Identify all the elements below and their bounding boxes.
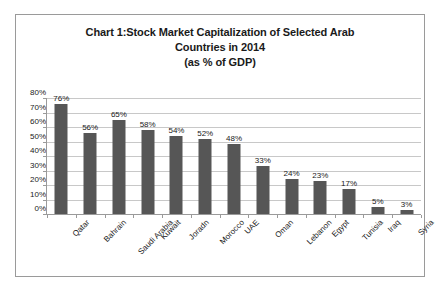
- y-axis-tick-mark: [43, 98, 46, 99]
- plot-area: 76%56%65%58%54%52%48%33%24%23%17%5%3%: [47, 98, 421, 214]
- x-axis-category-label: Joradn: [188, 218, 212, 242]
- bar-slot: 24%: [277, 98, 306, 214]
- bar: [55, 104, 68, 214]
- x-axis-category-label: Egypt: [330, 218, 351, 239]
- bar-value-label: 76%: [53, 94, 69, 103]
- x-axis-category-label: UAE: [243, 218, 261, 236]
- bar-slot: 33%: [248, 98, 277, 214]
- x-axis-category-label: Morocco: [218, 218, 246, 246]
- x-axis-category-label: Qatar: [71, 218, 92, 239]
- bar-slot: 23%: [306, 98, 335, 214]
- y-axis-tick-label: 0%: [18, 204, 46, 213]
- bar: [199, 139, 212, 214]
- chart-container: Chart 1:Stock Market Capitalization of S…: [15, 14, 425, 277]
- y-axis-tick-mark: [43, 200, 46, 201]
- bar-value-label: 3%: [401, 200, 413, 209]
- y-axis-tick-label: 10%: [18, 189, 46, 198]
- bar-slot: 3%: [392, 98, 421, 214]
- y-axis-tick-mark: [43, 214, 46, 215]
- bar: [285, 179, 298, 214]
- bar-series: 76%56%65%58%54%52%48%33%24%23%17%5%3%: [47, 98, 421, 214]
- bar-value-label: 33%: [255, 156, 271, 165]
- y-axis-tick-label: 20%: [18, 175, 46, 184]
- bar-value-label: 54%: [168, 126, 184, 135]
- bar: [256, 166, 269, 214]
- bar-slot: 54%: [162, 98, 191, 214]
- x-axis-category-label: Oman: [273, 218, 295, 240]
- bar-value-label: 24%: [284, 169, 300, 178]
- bar-slot: 58%: [133, 98, 162, 214]
- bar: [141, 130, 154, 214]
- bar: [371, 207, 384, 214]
- y-axis-tick-mark: [43, 142, 46, 143]
- bar-value-label: 5%: [372, 197, 384, 206]
- bar: [314, 181, 327, 214]
- bar: [400, 210, 413, 214]
- bar-slot: 5%: [363, 98, 392, 214]
- y-axis-tick-label: 60%: [18, 117, 46, 126]
- y-axis-tick-mark: [43, 156, 46, 157]
- bar: [112, 120, 125, 214]
- bar-value-label: 52%: [197, 129, 213, 138]
- x-axis-tick-mark: [421, 215, 422, 218]
- bar: [170, 136, 183, 214]
- y-axis-tick-label: 80%: [18, 88, 46, 97]
- y-axis-tick-mark: [43, 185, 46, 186]
- y-axis-tick-label: 30%: [18, 160, 46, 169]
- y-axis-tick-mark: [43, 171, 46, 172]
- bar-value-label: 65%: [111, 110, 127, 119]
- bar-value-label: 17%: [341, 179, 357, 188]
- bar-value-label: 56%: [82, 123, 98, 132]
- bar-slot: 65%: [105, 98, 134, 214]
- bar-slot: 48%: [220, 98, 249, 214]
- bar: [84, 133, 97, 214]
- y-axis-tick-labels: 0%10%20%30%40%50%60%70%80%: [18, 92, 46, 209]
- bar: [343, 189, 356, 214]
- bar-value-label: 23%: [312, 171, 328, 180]
- x-axis-category-label: Iraq: [386, 218, 402, 234]
- x-axis-category-label: Syria: [416, 218, 435, 237]
- bar-slot: 76%: [47, 98, 76, 214]
- x-axis-category-label: Bahrain: [102, 218, 128, 244]
- x-axis-category-label: Tunisia: [361, 218, 385, 242]
- y-axis-tick-mark: [43, 127, 46, 128]
- y-axis-tick-mark: [43, 113, 46, 114]
- y-axis-tick-label: 50%: [18, 131, 46, 140]
- bar-slot: 52%: [191, 98, 220, 214]
- y-axis-tick-label: 40%: [18, 146, 46, 155]
- plot-wrapper: 0%10%20%30%40%50%60%70%80% 76%56%65%58%5…: [16, 15, 424, 276]
- x-axis-category-labels: QatarBahrainSaudi ArabiaKuwaitJoradnMoro…: [47, 218, 421, 268]
- bar: [227, 144, 240, 214]
- y-axis-tick-label: 70%: [18, 102, 46, 111]
- bar-value-label: 58%: [140, 120, 156, 129]
- bar-slot: 17%: [335, 98, 364, 214]
- bar-slot: 56%: [76, 98, 105, 214]
- bar-value-label: 48%: [226, 134, 242, 143]
